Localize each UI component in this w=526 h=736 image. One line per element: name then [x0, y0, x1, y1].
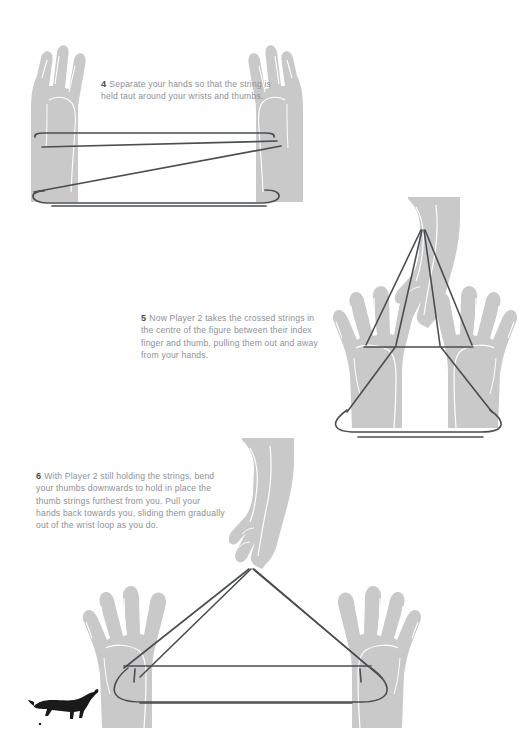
step-4-number: 4 — [101, 79, 106, 89]
illustrations-layer — [0, 0, 526, 736]
leaping-cat-icon — [28, 689, 98, 725]
step-5-instruction: 5Now Player 2 takes the crossed strings … — [130, 300, 319, 361]
step-4-body: Separate your hands so that the string i… — [101, 79, 271, 101]
figure-step-5 — [333, 197, 517, 437]
step-6-number: 6 — [36, 471, 41, 481]
step-6-body: With Player 2 still holding the strings,… — [36, 471, 225, 530]
page-canvas: 4Separate your hands so that the string … — [0, 0, 526, 736]
step-5-body: Now Player 2 takes the crossed strings i… — [141, 313, 318, 360]
step-5-number: 5 — [141, 313, 146, 323]
step-6-instruction: 6With Player 2 still holding the strings… — [25, 458, 226, 531]
step-4-instruction: 4Separate your hands so that the string … — [90, 66, 276, 103]
